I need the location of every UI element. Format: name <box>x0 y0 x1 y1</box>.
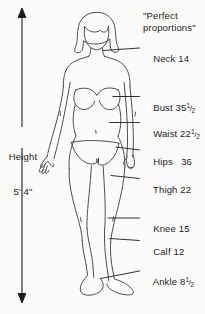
measurement-text-calf: Calf 12 <box>153 246 184 257</box>
neck-left <box>89 48 91 57</box>
measurement-text-waist: Waist 22 <box>153 128 191 139</box>
torso-left-outline <box>63 56 88 86</box>
bust-left-curve <box>74 90 95 109</box>
bangs <box>85 26 109 32</box>
left-leg-outer <box>69 169 82 241</box>
navel <box>95 130 96 133</box>
neck-right <box>102 48 104 57</box>
measurement-text-thigh: Thigh 22 <box>153 184 191 195</box>
diagram-title-line-2: proportions" <box>143 22 205 34</box>
right-arm-outer <box>130 87 133 157</box>
fraction-waist: 1/2 <box>191 128 200 140</box>
fraction-denominator-ankle: 2 <box>191 281 195 288</box>
leader-line-ankle <box>101 271 140 279</box>
body-outline-group <box>39 12 135 295</box>
bust-right-curve <box>99 90 120 110</box>
measurement-text-knee: Knee 15 <box>153 223 189 234</box>
swimsuit-leg-left <box>71 143 98 164</box>
leader-line-calf <box>110 239 140 241</box>
fraction-ankle: 1/2 <box>185 276 194 288</box>
left-ankle-foot <box>80 265 103 295</box>
left-calf-inner <box>87 229 93 268</box>
measurement-label-thigh: Thigh 22 <box>142 173 191 206</box>
measurement-label-neck: Neck 14 <box>142 42 189 75</box>
torso-right-outline <box>105 56 130 86</box>
fraction-bust: 1/2 <box>186 102 195 114</box>
fraction-denominator-waist: 2 <box>196 133 200 140</box>
left-arm-outer <box>47 87 63 157</box>
measurement-text-neck: Neck 14 <box>153 53 189 64</box>
hair-outline <box>75 12 119 52</box>
left-calf-outer <box>82 241 86 265</box>
height-label: Height 5' 4" <box>2 128 44 220</box>
swimsuit-bottom <box>71 141 119 144</box>
right-leg-inner <box>103 166 105 229</box>
waist-right-line <box>118 104 121 136</box>
left-hand-finger-3 <box>45 166 48 174</box>
swimsuit-leg-right <box>97 143 119 165</box>
diagram-title-line-1: "Perfect <box>143 10 205 22</box>
left-hand-wrist <box>48 161 54 167</box>
height-label-line-1: Height <box>2 151 44 163</box>
leader-line-thigh <box>111 176 140 179</box>
measurement-text-bust: Bust 35 <box>153 102 186 113</box>
fraction-denominator-bust: 2 <box>192 107 196 114</box>
bust-top-line <box>75 88 118 96</box>
left-knee-mark <box>80 218 81 222</box>
right-hand-knuckles <box>128 167 133 168</box>
measurement-label-ankle: Ankle 81/2 <box>142 265 194 299</box>
measurement-text-hips: Hips 36 <box>153 156 192 167</box>
left-leg-inner <box>87 166 91 229</box>
right-leg-outer <box>111 167 125 242</box>
right-calf-outer <box>110 242 112 268</box>
right-arm-crease <box>135 112 136 116</box>
measurement-text-ankle: Ankle 8 <box>153 276 186 287</box>
waist-left-line <box>73 105 76 136</box>
right-arm-inner <box>124 83 128 156</box>
leader-line-neck <box>103 48 140 51</box>
right-calf-inner <box>104 229 107 273</box>
height-arrow-head-top <box>18 8 26 18</box>
leader-lines-group <box>101 48 140 279</box>
right-knee-mark <box>113 217 114 221</box>
diagram-title: "Perfect proportions" <box>143 10 205 34</box>
perfect-proportions-diagram: "Perfect proportions" Height 5' 4" Neck … <box>0 0 205 314</box>
height-label-line-2: 5' 4" <box>2 186 44 198</box>
height-arrow-head-bottom <box>18 294 26 304</box>
measurement-label-calf: Calf 12 <box>142 235 184 268</box>
